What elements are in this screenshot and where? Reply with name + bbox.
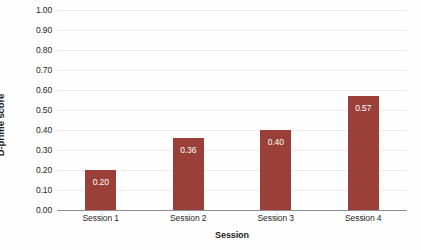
x-axis-title: Session [57,230,407,240]
x-axis-tick-label: Session 1 [57,213,145,223]
x-axis-tick-label: Session 3 [232,213,320,223]
bar-value-label: 0.20 [93,177,109,187]
y-axis-tick-label: 0.20 [18,166,52,175]
bar-value-label: 0.57 [355,103,371,113]
y-axis-tick-label: 0.90 [18,26,52,35]
x-axis-tick-label: Session 2 [145,213,233,223]
y-axis-tick-label: 0.50 [18,106,52,115]
bar-slot: 0.20 [57,10,145,210]
bar-value-label: 0.40 [268,137,284,147]
bars-group: 0.200.360.400.57 [57,10,407,210]
bar[interactable]: 0.20 [85,170,116,210]
y-axis-tick-label-group: 1.000.900.800.700.600.500.400.300.200.10… [18,10,52,210]
bar-value-label: 0.36 [180,145,196,155]
y-axis-tick-label: 0.80 [18,46,52,55]
bar[interactable]: 0.57 [348,96,379,210]
y-axis-tick-label: 0.70 [18,66,52,75]
x-axis-baseline [57,210,407,211]
y-axis-tick-label: 0.40 [18,126,52,135]
bar-slot: 0.40 [232,10,320,210]
bar-slot: 0.57 [320,10,408,210]
y-axis-tick-label: 0.30 [18,146,52,155]
bar-chart-figure: D-prime score 1.000.900.800.700.600.500.… [0,0,421,250]
y-axis-tick-label: 0.60 [18,86,52,95]
y-axis-tick-label: 0.00 [18,206,52,215]
x-axis-tick-label-group: Session 1Session 2Session 3Session 4 [57,213,407,223]
x-axis-tick-label: Session 4 [320,213,408,223]
bar[interactable]: 0.36 [173,138,204,210]
y-axis-tick-label: 1.00 [18,6,52,15]
plot-area: 0.200.360.400.57 [57,10,407,210]
y-axis-tick-label: 0.10 [18,186,52,195]
bar[interactable]: 0.40 [260,130,291,210]
bar-slot: 0.36 [145,10,233,210]
